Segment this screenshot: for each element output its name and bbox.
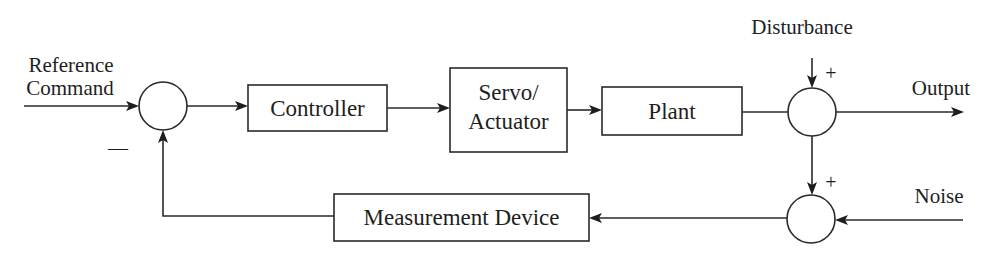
- reference-label-line1: Reference: [28, 53, 113, 77]
- disturbance-summing-junction: [788, 88, 836, 136]
- reference-summing-junction: [139, 82, 187, 130]
- reference-command-input: Reference Command: [24, 53, 139, 111]
- plant-label: Plant: [648, 99, 696, 124]
- noise-path-plus-sign: +: [825, 171, 836, 193]
- servo-label-line1: Servo/: [478, 80, 539, 105]
- noise-input: Noise: [835, 184, 964, 225]
- controller-block: Controller: [248, 85, 387, 131]
- disturbance-label: Disturbance: [751, 15, 852, 39]
- output-label: Output: [912, 76, 971, 100]
- servo-actuator-block: Servo/ Actuator: [450, 68, 567, 152]
- controller-label: Controller: [270, 96, 365, 121]
- disturbance-input: Disturbance +: [751, 15, 852, 88]
- noise-label: Noise: [915, 184, 964, 208]
- noise-summing-junction: [787, 195, 835, 243]
- reference-label-line2: Command: [26, 76, 114, 100]
- disturbance-plus-sign: +: [825, 62, 836, 84]
- feedback-path-line: [163, 138, 334, 216]
- measurement-device-label: Measurement Device: [363, 205, 559, 230]
- plant-block: Plant: [602, 87, 742, 135]
- feedback-minus-sign: —: [107, 137, 129, 159]
- servo-label-line2: Actuator: [468, 109, 549, 134]
- measurement-device-block: Measurement Device: [334, 194, 589, 241]
- output-signal: Output: [836, 76, 970, 117]
- control-loop-diagram: Reference Command — Controller Servo/ Ac…: [0, 0, 995, 258]
